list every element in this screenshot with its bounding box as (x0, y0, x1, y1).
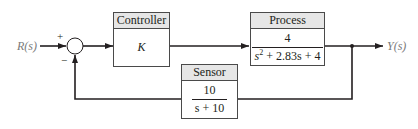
controller-block: Controller K (113, 12, 170, 67)
sensor-block: Sensor 10 s + 10 (181, 64, 238, 119)
sensor-transfer-function: 10 s + 10 (192, 84, 227, 115)
sensor-numerator: 10 (200, 84, 220, 99)
process-transfer-function: 4 s2 + 2.83s + 4 (252, 32, 324, 63)
controller-gain: K (137, 40, 145, 55)
minus-sign: − (61, 55, 67, 66)
sensor-title: Sensor (182, 65, 237, 81)
output-signal-label: Y(s) (387, 39, 406, 54)
process-title: Process (251, 13, 324, 29)
process-numerator: 4 (280, 32, 294, 47)
summing-junction (67, 38, 83, 54)
process-denominator: s2 + 2.83s + 4 (252, 48, 324, 63)
plus-sign: + (57, 31, 63, 42)
sensor-denominator: s + 10 (192, 100, 227, 115)
process-block: Process 4 s2 + 2.83s + 4 (250, 12, 325, 66)
controller-title: Controller (114, 13, 169, 29)
input-signal-label: R(s) (17, 39, 37, 54)
